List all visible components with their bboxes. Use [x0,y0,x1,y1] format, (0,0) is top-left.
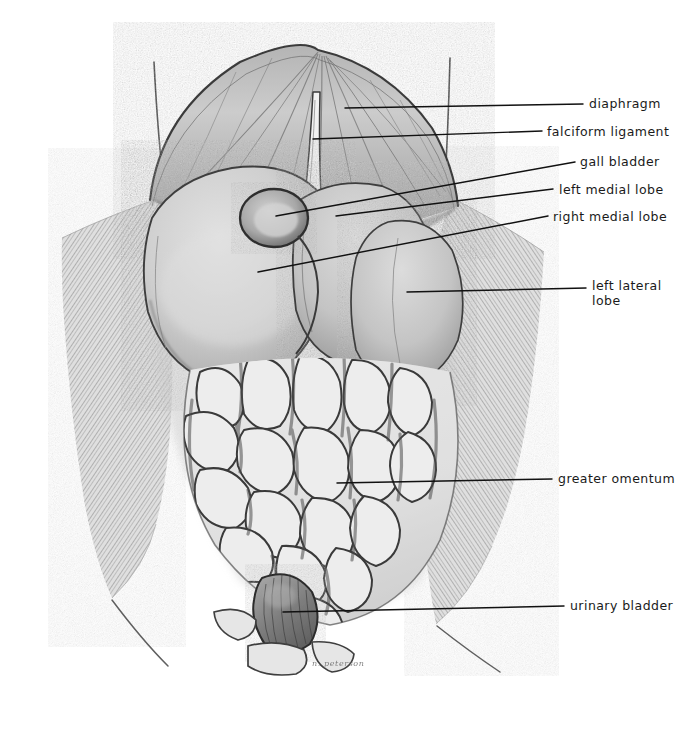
urinary-bladder [253,574,317,653]
label-right-medial-lobe: right medial lobe [553,209,667,224]
artist-signature: n. peterson [312,659,365,668]
label-diaphragm: diaphragm [589,96,661,111]
figure-canvas: n. peterson diaphragmfalciform ligamentg… [0,0,695,730]
label-falciform-ligament: falciform ligament [547,124,669,139]
label-greater-omentum: greater omentum [558,471,675,486]
greater-omentum [170,340,470,646]
label-gall-bladder: gall bladder [580,154,660,169]
label-urinary-bladder: urinary bladder [570,598,673,613]
label-left-lateral-lobe: left lateral lobe [592,278,662,308]
label-left-medial-lobe: left medial lobe [559,182,664,197]
